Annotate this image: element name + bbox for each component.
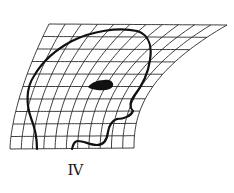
deformed-grid: [10, 24, 227, 149]
grid-horizontal-line: [49, 24, 227, 25]
grid-horizontal-line: [43, 37, 207, 38]
grid-horizontal-line: [11, 136, 135, 137]
grid-horizontal-line: [13, 123, 136, 124]
transformation-diagram: IV: [0, 0, 234, 193]
head-outline: [28, 29, 151, 149]
figure-label: IV: [0, 161, 150, 179]
eye-blob: [88, 80, 113, 91]
